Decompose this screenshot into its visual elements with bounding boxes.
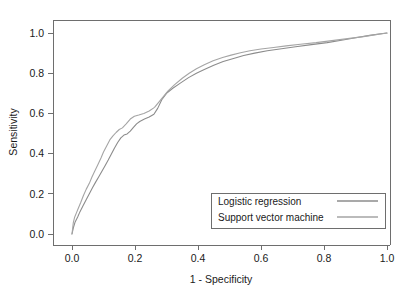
x-tick-label-3: 0.6 xyxy=(254,252,269,264)
y-tick-label-0: 0.0 xyxy=(29,228,44,240)
y-tick-label-5: 1.0 xyxy=(29,27,44,39)
y-tick-label-1: 0.2 xyxy=(29,188,44,200)
x-tick-label-4: 0.8 xyxy=(317,252,332,264)
x-axis-tick-labels: 0.00.20.40.60.81.0 xyxy=(65,252,395,264)
x-axis-ticks xyxy=(72,245,387,250)
legend-label-support-vector-machine: Support vector machine xyxy=(218,212,324,223)
x-axis-title: 1 - Specificity xyxy=(190,273,253,285)
y-axis-ticks xyxy=(48,33,53,234)
y-tick-label-4: 0.8 xyxy=(29,67,44,79)
x-tick-label-1: 0.2 xyxy=(128,252,143,264)
y-axis-title: Sensitivity xyxy=(7,108,19,156)
x-tick-label-2: 0.4 xyxy=(191,252,206,264)
y-tick-label-3: 0.6 xyxy=(29,107,44,119)
roc-plot-svg: 0.00.20.40.60.81.0 0.00.20.40.60.81.0 1 … xyxy=(0,0,416,292)
x-tick-label-0: 0.0 xyxy=(65,252,80,264)
legend-label-logistic-regression: Logistic regression xyxy=(218,196,301,207)
y-tick-label-2: 0.4 xyxy=(29,147,44,159)
y-axis-tick-labels: 0.00.20.40.60.81.0 xyxy=(29,27,44,240)
x-tick-label-5: 1.0 xyxy=(380,252,395,264)
roc-curve-figure: 0.00.20.40.60.81.0 0.00.20.40.60.81.0 1 … xyxy=(0,0,416,292)
